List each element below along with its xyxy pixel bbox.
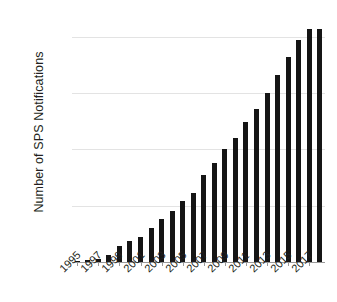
bar-2011 <box>243 122 248 262</box>
bar-2018 <box>317 29 322 262</box>
bar-2006 <box>191 193 196 262</box>
bar-2008 <box>212 163 217 262</box>
bar-2016 <box>296 40 301 262</box>
bar-2013 <box>265 93 270 262</box>
bar-series <box>72 20 325 262</box>
bar-2014 <box>275 75 280 262</box>
bar-2009 <box>222 149 227 262</box>
y-axis-title: Number of SPS Notifications <box>32 17 46 247</box>
bar-2015 <box>286 57 291 262</box>
chart-figure: Number of SPS Notifications 050001000015… <box>0 0 337 302</box>
bar-2010 <box>233 138 238 262</box>
plot-area: 05000100001500020000 <box>72 20 325 262</box>
bar-2017 <box>307 29 312 262</box>
bar-2012 <box>254 109 259 262</box>
